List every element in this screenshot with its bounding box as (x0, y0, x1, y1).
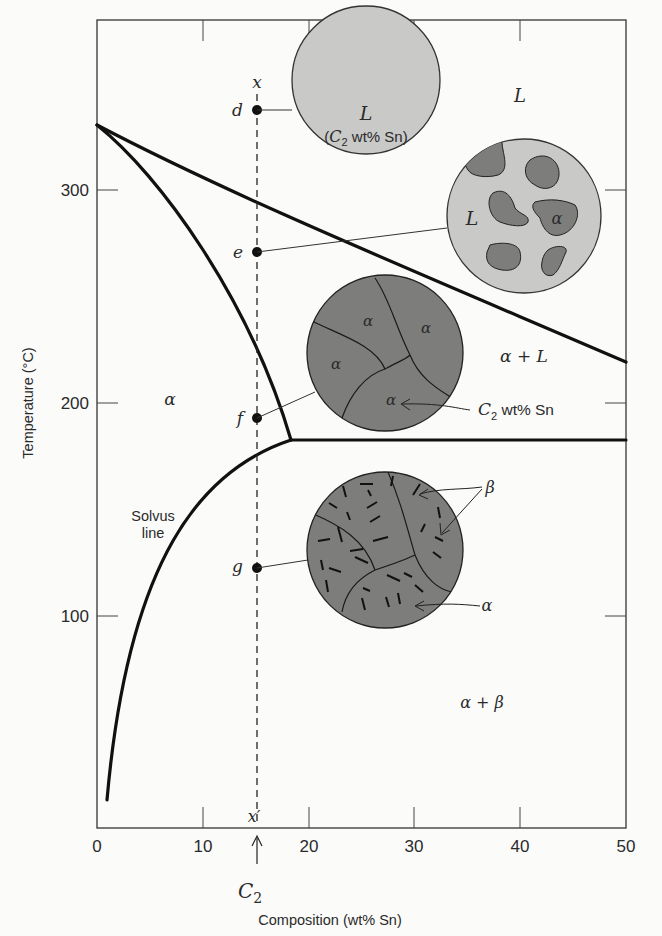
point-f-label: f (235, 408, 246, 428)
circle-d-phase-label: L (359, 102, 373, 124)
circle-f-grain-label-4: α (386, 391, 396, 409)
circle-f-grain-label-2: α (421, 319, 431, 337)
x-tick-30: 30 (405, 837, 424, 856)
microstructure-d: L (C2 wt% Sn) (292, 6, 440, 154)
circle-e-alpha-label: α (552, 209, 563, 228)
region-alpha-plus-liquid-label: α + L (500, 346, 548, 366)
point-x-label: x (252, 72, 262, 92)
point-x-prime-label: x′ (248, 807, 261, 826)
point-e-label: e (233, 242, 243, 262)
circle-g-beta-label: β (484, 478, 494, 497)
y-axis-title: Temperature (°C) (20, 347, 36, 458)
phase-diagram: 0 10 20 30 40 50 100 200 300 Composition… (0, 0, 662, 936)
circle-f-grain-label-1: α (363, 312, 373, 330)
solvus-label-line1: Solvus (131, 508, 175, 524)
region-alpha-plus-beta-label: α + β (460, 693, 504, 712)
region-alpha-label: α (164, 389, 176, 409)
circle-d-composition-label: (C2 wt% Sn) (324, 127, 407, 148)
point-g-label: g (232, 556, 243, 576)
solvus-line (107, 440, 291, 800)
x-tick-10: 10 (194, 837, 213, 856)
x-tick-labels: 0 10 20 30 40 50 (92, 837, 635, 856)
y-tick-labels: 100 200 300 (61, 181, 89, 626)
solvus-label-line2: line (142, 525, 165, 541)
c2-label: C2 (238, 879, 262, 906)
right-ticks (605, 190, 626, 616)
point-d-label: d (232, 100, 243, 120)
x-tick-0: 0 (92, 837, 101, 856)
circle-g-alpha-label: α (482, 596, 493, 615)
circle-f-composition-callout: C2 wt% Sn (478, 399, 554, 422)
c2-marker: C2 (238, 836, 262, 906)
microstructure-g: β α (307, 472, 495, 628)
y-tick-100: 100 (61, 607, 89, 626)
circle-f-grain-label-3: α (331, 355, 341, 373)
y-tick-300: 300 (61, 181, 89, 200)
x-tick-20: 20 (300, 837, 319, 856)
x-tick-50: 50 (617, 837, 636, 856)
region-liquid-label: L (513, 85, 526, 106)
x-axis-title: Composition (wt% Sn) (258, 912, 401, 928)
microstructure-e: L α (447, 139, 601, 293)
x-tick-40: 40 (511, 837, 530, 856)
circle-e-liquid-label: L (465, 207, 479, 229)
y-tick-200: 200 (61, 394, 89, 413)
left-ticks (97, 190, 118, 616)
